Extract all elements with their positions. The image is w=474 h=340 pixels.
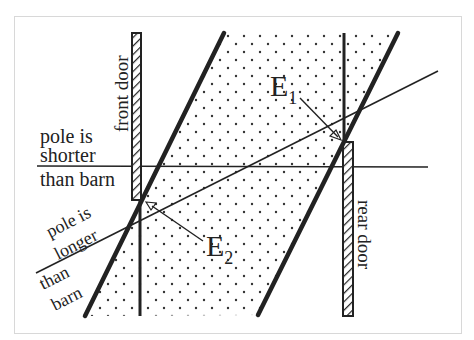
front-door-label: front door	[111, 55, 132, 132]
event1-label-base: E	[270, 69, 288, 102]
pole-shorter-label-2: shorter	[40, 144, 96, 166]
front-door-barrier	[132, 33, 141, 200]
barn-simultaneity-line	[37, 166, 428, 167]
barn-pole-spacetime-diagram: front door rear door pole is shorter tha…	[0, 0, 474, 340]
event2-label-subscript: 2	[224, 248, 233, 268]
pole-shorter-label-3: than barn	[40, 168, 115, 190]
rear-door-barrier	[343, 142, 353, 316]
event2-label-base: E	[206, 229, 224, 262]
event1-label-subscript: 1	[288, 88, 297, 108]
rear-door-label: rear door	[354, 200, 375, 270]
